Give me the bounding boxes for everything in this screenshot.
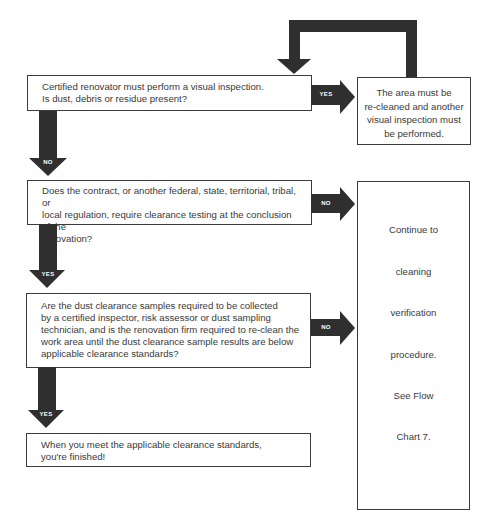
step-line: technician, and is the renovation firm r… (41, 324, 300, 336)
reclean-line: re-cleaned and another (358, 100, 470, 114)
arrow-label-yes: YES (33, 411, 59, 417)
step-line: Does the contract, or another federal, s… (42, 185, 301, 209)
arrow-shaft (38, 367, 56, 411)
continue-line: cleaning (358, 266, 469, 278)
arrow-shaft (39, 111, 57, 159)
step-line: you're finished! (41, 451, 300, 463)
arrow-label-no: NO (313, 200, 339, 206)
step-line: renovation? (42, 233, 301, 245)
continue-line: Chart 7. (358, 431, 469, 443)
arrow-head-right-icon (340, 80, 355, 114)
step-line: local regulation, require clearance test… (42, 209, 301, 233)
arrow-head-right-icon (340, 311, 355, 345)
arrow-label-yes: YES (35, 271, 61, 277)
continue-line: procedure. (358, 349, 469, 361)
step-dust-clearance-samples: Are the dust clearance samples required … (26, 293, 311, 368)
continue-line: See Flow (358, 390, 469, 402)
step-line: work area until the dust clearance sampl… (41, 336, 300, 348)
step-line: by a certified inspector, risk assessor … (41, 312, 300, 324)
arrow-shaft (39, 224, 57, 271)
reclean-line: The area must be (358, 86, 470, 100)
step-line: Are the dust clearance samples required … (41, 300, 300, 312)
arrow-label-yes: YES (313, 91, 339, 97)
continue-line: verification (358, 307, 469, 319)
step-line: Is dust, debris or residue present? (42, 93, 301, 105)
step-clearance-testing-required: Does the contract, or another federal, s… (27, 180, 312, 225)
loop-arrow-left-shaft (289, 20, 300, 60)
arrow-head-right-icon (340, 187, 355, 221)
step-line: Certified renovator must perform a visua… (42, 81, 301, 93)
continue-line: Continue to (358, 224, 469, 236)
reclean-line: visual inspection must (358, 113, 470, 127)
step-line: applicable clearance standards? (41, 348, 300, 360)
arrow-label-no: NO (313, 324, 339, 330)
reclean-line: be performed. (358, 127, 470, 141)
reclean-box: The area must be re-cleaned and another … (357, 77, 471, 145)
step-visual-inspection: Certified renovator must perform a visua… (27, 75, 312, 111)
step-finished: When you meet the applicable clearance s… (26, 433, 311, 467)
loop-arrow-head-icon (277, 59, 311, 74)
loop-arrow-top-bar (290, 20, 417, 32)
loop-arrow-right-riser (406, 20, 417, 78)
arrow-label-no: NO (36, 159, 60, 165)
step-line: When you meet the applicable clearance s… (41, 439, 300, 451)
continue-box: Continue to cleaning verification proced… (357, 181, 470, 510)
